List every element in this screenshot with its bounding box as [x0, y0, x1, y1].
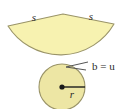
base-circumference-label: b = u [92, 60, 115, 72]
leader-line-upper [66, 62, 88, 67]
radius-label: r [70, 88, 75, 100]
geometry-figure: s s r b = u [0, 0, 126, 109]
slant-label-right: s [89, 10, 93, 22]
cone-net-diagram: s s r b = u [0, 0, 126, 109]
circle-center-dot [59, 84, 64, 89]
slant-label-left: s [32, 11, 36, 23]
sector-shape [8, 14, 114, 55]
